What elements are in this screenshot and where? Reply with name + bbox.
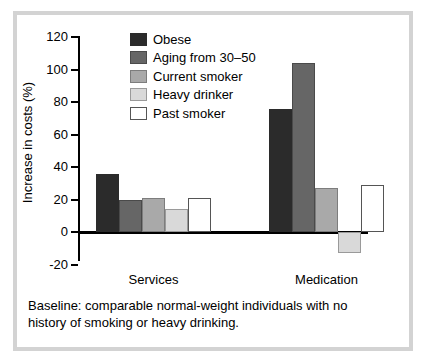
legend-item-aging-from-30-50: Aging from 30–50 xyxy=(130,49,256,68)
caption-line-1: Baseline: comparable normal-weight indiv… xyxy=(28,297,398,314)
bar-medication-aging-from-30-50 xyxy=(292,63,315,232)
bar-services-current-smoker xyxy=(142,198,165,232)
legend-swatch-icon xyxy=(130,88,147,101)
legend-swatch-icon xyxy=(130,107,147,120)
bar-medication-past-smoker xyxy=(361,185,384,232)
bar-medication-obese xyxy=(269,109,292,233)
figure-container: 120100806040200-20 Increase in costs (%)… xyxy=(0,0,426,364)
figure-caption: Baseline: comparable normal-weight indiv… xyxy=(28,297,398,331)
legend-swatch-icon xyxy=(130,70,147,83)
legend-label: Past smoker xyxy=(153,107,225,120)
bar-services-past-smoker xyxy=(188,198,211,232)
x-category-label-services: Services xyxy=(94,272,214,287)
legend-item-past-smoker: Past smoker xyxy=(130,104,256,123)
legend-swatch-icon xyxy=(130,51,147,64)
legend-label: Heavy drinker xyxy=(153,88,233,101)
bar-medication-heavy-drinker xyxy=(338,232,361,253)
y-axis-title: Increase in costs (%) xyxy=(20,58,35,228)
bar-medication-current-smoker xyxy=(315,188,338,232)
legend-label: Obese xyxy=(153,33,191,46)
caption-line-2: history of smoking or heavy drinking. xyxy=(28,314,398,331)
legend-swatch-icon xyxy=(130,33,147,46)
bar-services-aging-from-30-50 xyxy=(119,200,142,233)
legend-item-heavy-drinker: Heavy drinker xyxy=(130,86,256,105)
y-tick-label: -20 xyxy=(26,258,68,271)
bar-services-heavy-drinker xyxy=(165,209,188,232)
x-category-label-medication: Medication xyxy=(267,272,387,287)
bar-services-obese xyxy=(96,174,119,233)
legend-item-current-smoker: Current smoker xyxy=(130,67,256,86)
legend-label: Current smoker xyxy=(153,70,243,83)
legend-label: Aging from 30–50 xyxy=(153,51,256,64)
chart-legend: ObeseAging from 30–50Current smokerHeavy… xyxy=(130,30,256,123)
y-tick-label: 120 xyxy=(26,30,68,43)
y-axis-line xyxy=(78,36,80,261)
legend-item-obese: Obese xyxy=(130,30,256,49)
